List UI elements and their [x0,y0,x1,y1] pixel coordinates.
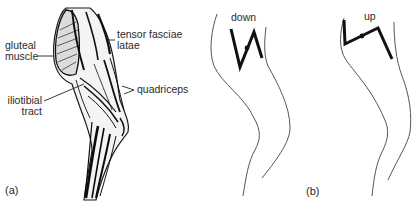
label-up: up [364,11,376,22]
panel-b-caption: (b) [306,186,319,197]
right-leg-outline [341,18,411,196]
up-hip-linkage [344,20,392,59]
label-down: down [231,12,256,23]
down-hip-linkage [231,29,262,67]
panel-b-leg-outlines [0,0,417,207]
